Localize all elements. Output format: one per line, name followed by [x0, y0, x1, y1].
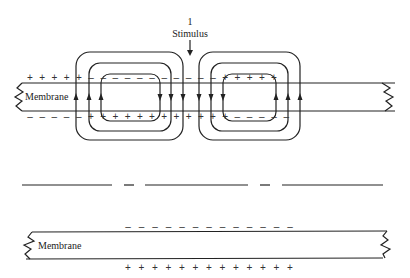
minus-charge: – [260, 221, 266, 232]
minus-charge: – [139, 221, 145, 232]
minus-charge: – [152, 221, 158, 232]
plus-charge: + [234, 72, 240, 83]
minus-charge: – [161, 72, 167, 83]
arrow-up-icon [99, 93, 104, 100]
plus-charge: + [193, 262, 199, 273]
minus-charge: – [27, 111, 33, 122]
plus-charge: + [198, 111, 204, 122]
membrane-break-right-icon [382, 83, 393, 111]
minus-charge: – [193, 221, 199, 232]
stimulus-arrow-icon [187, 40, 193, 56]
plus-charge: + [274, 262, 280, 273]
minus-charge: – [287, 221, 293, 232]
plus-charge: + [149, 111, 155, 122]
plus-charge: + [259, 72, 265, 83]
plus-charge: + [271, 72, 277, 83]
plus-charge: + [137, 111, 143, 122]
arrow-down-icon [209, 94, 214, 101]
right-loop-outer [199, 52, 300, 140]
plus-charge: + [220, 262, 226, 273]
plus-charge: + [88, 111, 94, 122]
arrow-down-icon [181, 94, 186, 101]
minus-charge: – [39, 111, 45, 122]
arrow-down-icon [158, 94, 163, 101]
plus-charge: + [64, 72, 70, 83]
plus-charge: + [206, 262, 212, 273]
plus-charge: + [161, 111, 167, 122]
arrow-down-icon [221, 94, 226, 101]
minus-charge: – [125, 221, 131, 232]
plus-charge: + [139, 262, 145, 273]
arrow-up-icon [298, 93, 303, 100]
stimulus-label: Stimulus [172, 28, 208, 39]
plus-charge: + [186, 111, 192, 122]
minus-charge: – [166, 221, 172, 232]
minus-charge: – [283, 111, 289, 122]
plus-charge: + [27, 72, 33, 83]
minus-charge: – [186, 72, 192, 83]
membrane-diagram: 1 Stimulus Membrane +++++–––––––––––++++… [0, 0, 410, 278]
bottom-membrane: Membrane [24, 231, 390, 259]
plus-charge: + [39, 72, 45, 83]
minus-charge: – [113, 72, 119, 83]
arrow-up-icon [87, 93, 92, 100]
minus-charge: – [247, 221, 253, 232]
membrane-break-right-icon [381, 231, 390, 258]
plus-charge: + [247, 262, 253, 273]
stimulus-number: 1 [188, 16, 193, 27]
top-membrane: Membrane [15, 83, 395, 111]
membrane-break-left-icon [24, 232, 34, 259]
plus-charge: + [222, 72, 228, 83]
minus-charge: – [274, 221, 280, 232]
minus-charge: – [210, 72, 216, 83]
minus-charge: – [198, 72, 204, 83]
minus-charge: – [206, 221, 212, 232]
minus-charge: – [247, 111, 253, 122]
arrow-up-icon [286, 93, 291, 100]
plus-charge: + [152, 262, 158, 273]
membrane-label: Membrane [38, 240, 82, 251]
plus-charge: + [125, 262, 131, 273]
minus-charge: – [149, 72, 155, 83]
minus-charge: – [271, 111, 277, 122]
plus-charge: + [100, 111, 106, 122]
minus-charge: – [259, 111, 265, 122]
plus-charge: + [112, 111, 118, 122]
current-arrows [74, 93, 303, 101]
minus-charge: – [235, 111, 241, 122]
membrane-label: Membrane [25, 91, 69, 102]
arrow-up-icon [274, 93, 279, 100]
plus-charge: + [247, 72, 253, 83]
plus-charge: + [76, 72, 82, 83]
top-outer-charges: +++++–––––––––––+++++ [27, 72, 277, 83]
plus-charge: + [210, 111, 216, 122]
arrow-down-icon [169, 94, 174, 101]
minus-charge: – [179, 221, 185, 232]
minus-charge: – [137, 72, 143, 83]
plus-charge: + [287, 262, 293, 273]
plus-charge: + [222, 111, 228, 122]
plus-charge: + [173, 111, 179, 122]
arrow-down-icon [197, 94, 202, 101]
bottom-inner-charges: +++++++++++++ [125, 262, 293, 273]
arrow-up-icon [74, 93, 79, 100]
plus-charge: + [166, 262, 172, 273]
current-loops [76, 52, 300, 140]
minus-charge: – [76, 111, 82, 122]
minus-charge: – [233, 221, 239, 232]
plus-charge: + [233, 262, 239, 273]
plus-charge: + [179, 262, 185, 273]
minus-charge: – [125, 72, 131, 83]
bottom-outer-charges: ––––––––––––– [125, 221, 293, 232]
plus-charge: + [51, 72, 57, 83]
plus-charge: + [260, 262, 266, 273]
minus-charge: – [88, 72, 94, 83]
plus-charge: + [125, 111, 131, 122]
minus-charge: – [64, 111, 70, 122]
membrane-break-left-icon [15, 83, 23, 111]
minus-charge: – [52, 111, 58, 122]
minus-charge: – [220, 221, 226, 232]
minus-charge: – [100, 72, 106, 83]
minus-charge: – [174, 72, 180, 83]
